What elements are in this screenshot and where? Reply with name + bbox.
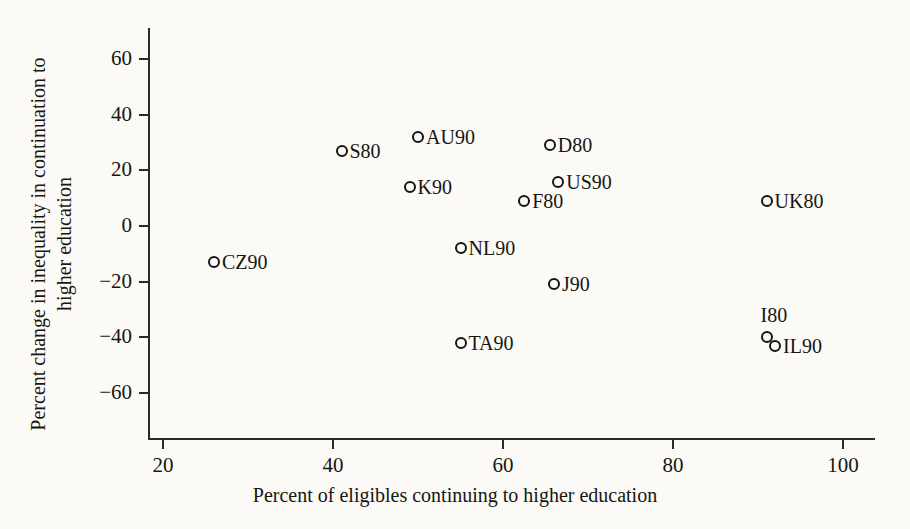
open-circle-marker-icon — [404, 181, 416, 193]
open-circle-marker-icon — [412, 131, 424, 143]
data-point-label: TA90 — [469, 333, 514, 353]
data-point-label: F80 — [532, 191, 563, 211]
data-point-label: D80 — [558, 135, 592, 155]
x-tick-label: 40 — [298, 455, 368, 476]
open-circle-marker-icon — [769, 340, 781, 352]
y-axis-line — [148, 28, 150, 440]
x-tick-label: 80 — [638, 455, 708, 476]
y-tick-mark — [139, 225, 148, 227]
x-axis-line — [148, 438, 875, 440]
data-point-label: J90 — [562, 274, 590, 294]
data-point-label: UK80 — [775, 191, 824, 211]
data-point-label: CZ90 — [222, 252, 268, 272]
open-circle-marker-icon — [336, 145, 348, 157]
data-point-label: K90 — [418, 177, 452, 197]
y-axis-title-line-2: higher education — [51, 9, 77, 479]
open-circle-marker-icon — [518, 195, 530, 207]
y-tick-mark — [139, 392, 148, 394]
y-tick-mark — [139, 336, 148, 338]
open-circle-marker-icon — [544, 139, 556, 151]
x-tick-label: 60 — [468, 455, 538, 476]
data-point-label: AU90 — [426, 127, 475, 147]
data-point-label: IL90 — [783, 336, 822, 356]
x-tick-mark — [672, 440, 674, 449]
y-axis-title: Percent change in inequality in continua… — [25, 9, 77, 479]
open-circle-marker-icon — [548, 278, 560, 290]
y-tick-mark — [139, 169, 148, 171]
x-tick-mark — [842, 440, 844, 449]
open-circle-marker-icon — [455, 337, 467, 349]
open-circle-marker-icon — [455, 242, 467, 254]
y-axis-title-line-1: Percent change in inequality in continua… — [25, 9, 51, 479]
x-tick-label: 100 — [808, 455, 878, 476]
x-tick-mark — [332, 440, 334, 449]
x-tick-label: 20 — [128, 455, 198, 476]
data-point-label: S80 — [350, 141, 381, 161]
x-tick-mark — [502, 440, 504, 449]
open-circle-marker-icon — [552, 176, 564, 188]
x-axis-title: Percent of eligibles continuing to highe… — [0, 484, 910, 507]
x-tick-mark — [162, 440, 164, 449]
data-point-label: US90 — [566, 172, 612, 192]
data-point-label: NL90 — [469, 238, 516, 258]
y-tick-mark — [139, 281, 148, 283]
open-circle-marker-icon — [761, 195, 773, 207]
data-point-label: I80 — [761, 305, 788, 325]
y-tick-mark — [139, 114, 148, 116]
open-circle-marker-icon — [208, 256, 220, 268]
scatter-chart-figure: −60−40−200204060 20406080100 CZ90S80K90A… — [0, 0, 910, 529]
y-tick-mark — [139, 58, 148, 60]
